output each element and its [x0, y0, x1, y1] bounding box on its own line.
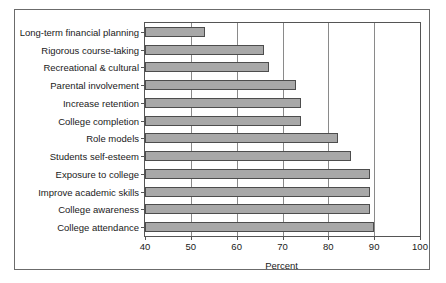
bar [145, 222, 374, 232]
x-axis-tick [328, 236, 329, 240]
y-axis-tick [141, 121, 145, 122]
y-axis-tick [141, 138, 145, 139]
x-axis-tick-label: 50 [186, 241, 197, 252]
bar [145, 80, 296, 90]
x-axis-tick [374, 236, 375, 240]
category-label: College awareness [58, 204, 139, 215]
category-label: College attendance [57, 222, 139, 233]
y-axis-tick [141, 50, 145, 51]
y-axis-tick [141, 103, 145, 104]
category-label: Long-term financial planning [20, 26, 139, 37]
chart-figure: 405060708090100Long-term financial plann… [14, 9, 430, 270]
bar [145, 45, 264, 55]
x-axis-tick-label: 90 [369, 241, 380, 252]
x-axis-tick [237, 236, 238, 240]
x-axis-tick [420, 236, 421, 240]
gridline [374, 23, 375, 236]
category-label: College completion [58, 115, 139, 126]
y-axis-tick [141, 67, 145, 68]
category-label: Parental involvement [50, 80, 139, 91]
y-axis-tick [141, 192, 145, 193]
bar [145, 187, 370, 197]
bar [145, 98, 301, 108]
bar [145, 169, 370, 179]
x-axis-tick-label: 100 [412, 241, 428, 252]
x-axis-tick-label: 60 [231, 241, 242, 252]
x-axis-tick-label: 80 [323, 241, 334, 252]
y-axis-tick [141, 32, 145, 33]
bar [145, 27, 205, 37]
x-axis-tick [191, 236, 192, 240]
category-label: Rigorous course-taking [41, 44, 139, 55]
bar [145, 116, 301, 126]
y-axis-tick [141, 227, 145, 228]
y-axis-tick [141, 156, 145, 157]
bar [145, 151, 351, 161]
x-axis-tick-label: 40 [140, 241, 151, 252]
category-label: Increase retention [63, 97, 139, 108]
x-axis-tick [283, 236, 284, 240]
category-label: Role models [86, 133, 139, 144]
plot-area: 405060708090100Long-term financial plann… [144, 22, 421, 237]
bar [145, 62, 269, 72]
x-axis-label: Percent [144, 260, 419, 271]
category-label: Exposure to college [56, 168, 139, 179]
category-label: Students self-esteem [50, 151, 139, 162]
category-label: Recreational & cultural [43, 62, 139, 73]
y-axis-tick [141, 174, 145, 175]
y-axis-tick [141, 209, 145, 210]
x-axis-tick [145, 236, 146, 240]
x-axis-tick-label: 70 [277, 241, 288, 252]
category-label: Improve academic skills [38, 186, 139, 197]
bar [145, 204, 370, 214]
y-axis-tick [141, 85, 145, 86]
bar [145, 133, 338, 143]
